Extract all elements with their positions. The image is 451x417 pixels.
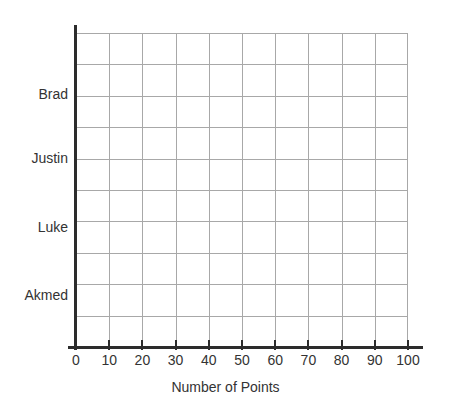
- y-axis-labels: Brad Justin Luke Akmed: [0, 0, 68, 417]
- x-tick-label-70: 70: [301, 352, 317, 369]
- y-tick-label-luke: Luke: [38, 219, 68, 235]
- y-tick-label-akmed: Akmed: [24, 287, 68, 303]
- y-tick-label-justin: Justin: [31, 150, 68, 166]
- x-axis-tick: [141, 340, 143, 350]
- x-axis-tick: [208, 340, 210, 350]
- x-axis-title: Number of Points: [0, 378, 451, 396]
- y-tick-label-brad: Brad: [38, 86, 68, 102]
- x-axis-tick: [341, 340, 343, 350]
- x-tick-label-90: 90: [367, 352, 383, 369]
- bars-layer: [76, 33, 408, 347]
- x-axis-tick: [307, 340, 309, 350]
- x-tick-label-100: 100: [396, 352, 419, 369]
- x-tick-label-50: 50: [234, 352, 250, 369]
- x-axis-tick: [274, 340, 276, 350]
- x-axis-tick: [241, 340, 243, 350]
- x-axis-line: [68, 346, 423, 349]
- bar-chart-worksheet: 0 10 20 30 40 50 60 70 80 90 100 Brad Ju…: [0, 0, 451, 417]
- x-tick-label-10: 10: [101, 352, 117, 369]
- x-tick-label-40: 40: [201, 352, 217, 369]
- x-tick-label-60: 60: [267, 352, 283, 369]
- x-axis-tick: [407, 340, 409, 350]
- x-tick-label-20: 20: [135, 352, 151, 369]
- x-tick-label-0: 0: [72, 352, 80, 369]
- y-axis-line: [74, 25, 77, 350]
- x-tick-label-80: 80: [334, 352, 350, 369]
- x-axis-tick: [175, 340, 177, 350]
- x-axis-tick: [108, 340, 110, 350]
- x-axis-tick: [75, 340, 77, 350]
- x-tick-label-30: 30: [168, 352, 184, 369]
- plot-area: [76, 33, 408, 347]
- x-axis-tick: [374, 340, 376, 350]
